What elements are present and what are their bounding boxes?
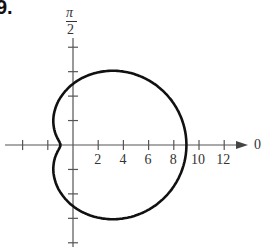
plot-svg [0,0,265,247]
two-label: 2 [67,23,74,37]
polar-axis-label: 0 [254,138,261,152]
tick-label: 4 [119,153,126,167]
tick-label: 6 [145,153,152,167]
pi-label: π [66,6,73,20]
tick-label: 2 [94,153,101,167]
axis-arrow-icon [236,141,248,149]
polar-graph: 9. π 2 0 24681012 [0,0,265,247]
tick-label: 8 [170,153,177,167]
tick-label: 12 [216,153,230,167]
tick-label: 10 [191,153,205,167]
